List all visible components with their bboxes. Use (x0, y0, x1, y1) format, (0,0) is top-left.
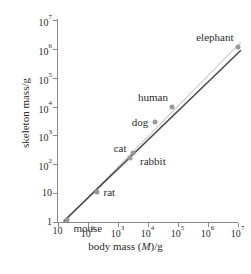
data-point-mouse (64, 217, 69, 222)
data-point-cat (128, 156, 133, 161)
x-axis-title: body mass (M)/g (0, 240, 251, 252)
chart-figure: 110102103104105106107 101021031041051061… (0, 0, 251, 274)
data-point-label-human: human (138, 92, 168, 103)
data-point-human (169, 104, 174, 109)
data-point-rabbit (131, 150, 136, 155)
series-reference-line (64, 50, 241, 221)
data-point-label-rat: rat (104, 187, 116, 198)
y-axis-title: skeleton mass/g (19, 33, 31, 193)
data-point-label-rabbit: rabbit (140, 156, 166, 167)
data-point-rat (94, 189, 99, 194)
data-point-label-mouse: mouse (74, 223, 103, 234)
data-point-label-cat: cat (114, 143, 127, 154)
data-point-label-elephant: elephant (196, 32, 233, 43)
data-point-elephant (235, 44, 240, 49)
data-point-dog (153, 119, 158, 124)
data-point-label-dog: dog (132, 117, 149, 128)
